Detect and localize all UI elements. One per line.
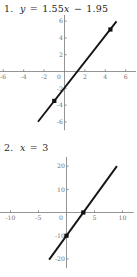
problem-1-intercept: 1.95: [86, 3, 108, 14]
x-tick-label: 6: [124, 73, 128, 80]
x-tick-label: -2: [41, 73, 47, 80]
problem-item-2: 2. x = 3 -10-505102010-10-20: [0, 139, 137, 277]
x-tick-label: -5: [35, 214, 41, 221]
x-tick-label: 0: [57, 73, 61, 80]
problem-1-equals: =: [29, 3, 39, 14]
problem-1-label: 1. y = 1.55x − 1.95: [4, 3, 108, 14]
y-tick-label: -10: [55, 232, 65, 239]
y-tick-label: 20: [57, 162, 65, 169]
problem-2-lhs: x: [20, 142, 26, 153]
plot-2-svg: -10-505102010-10-20: [0, 154, 137, 277]
problem-1-minus: −: [73, 3, 83, 14]
x-tick-label: 10: [119, 214, 127, 221]
y-tick-label: 4: [59, 34, 63, 41]
y-tick-label: 2: [59, 51, 63, 58]
x-tick-label: -10: [6, 214, 16, 221]
problem-1-number: 1.: [4, 3, 13, 14]
problem-1-x-var: x: [64, 3, 70, 14]
problem-2-rhs: 3: [42, 142, 48, 153]
problem-2-number: 2.: [4, 142, 13, 153]
y-tick-label: -6: [57, 118, 63, 125]
x-tick-label: 5: [93, 214, 97, 221]
x-tick-label: 0: [59, 214, 63, 221]
problem-2-plot: -10-505102010-10-20: [0, 154, 137, 277]
y-tick-label: 6: [59, 17, 63, 24]
data-point-marker: [108, 27, 112, 31]
problem-item-1: 1. y = 1.55x − 1.95 -6-4-20246642-2-4-6: [0, 0, 137, 139]
data-point-marker: [52, 99, 56, 103]
y-tick-label: -20: [55, 255, 65, 262]
plot-1-svg: -6-4-20246642-2-4-6: [0, 15, 137, 139]
data-point-marker: [64, 234, 68, 238]
y-tick-label: -4: [57, 101, 63, 108]
x-tick-label: 4: [103, 73, 107, 80]
x-tick-label: 2: [83, 73, 87, 80]
x-tick-label: -4: [21, 73, 27, 80]
problem-1-lhs: y: [20, 3, 26, 14]
problem-1-slope: 1.55: [42, 3, 64, 14]
problem-1-plot: -6-4-20246642-2-4-6: [0, 15, 137, 139]
data-point-marker: [81, 210, 85, 214]
y-tick-label: 10: [57, 186, 65, 193]
problem-2-label: 2. x = 3: [4, 142, 48, 153]
x-tick-label: -6: [0, 73, 6, 80]
problem-2-equals: =: [29, 142, 39, 153]
